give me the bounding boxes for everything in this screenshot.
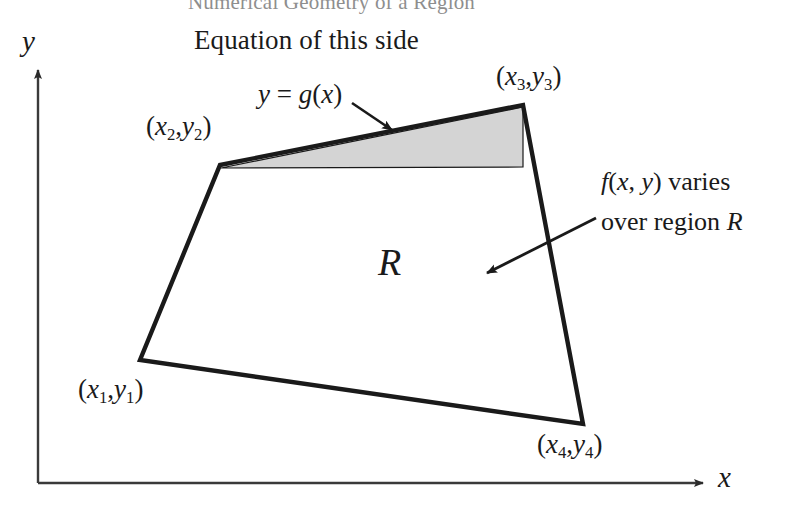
- y-axis-label: y: [22, 26, 35, 56]
- vertex-1-x: x: [87, 374, 99, 404]
- vertex-4-x: x: [546, 429, 558, 459]
- vertex-3-y: y: [532, 61, 544, 91]
- vertex-3-x: x: [505, 61, 517, 91]
- cut-off-page-title: Numerical Geometry of a Region: [188, 0, 475, 13]
- f-arg-y: y: [641, 167, 653, 196]
- caption-f-varies-line2: over region R: [601, 208, 743, 235]
- x-axis-label: x: [718, 462, 731, 492]
- gx-g: g: [299, 79, 313, 109]
- gx-y: y: [258, 79, 270, 109]
- vertex-2-label: (x2,y2): [146, 112, 211, 143]
- gx-close-paren: ): [333, 79, 342, 109]
- region-r-label: R: [378, 243, 401, 283]
- caption-f-varies-line1: f(x, y) varies: [601, 168, 730, 195]
- over-region-text: over region: [601, 207, 727, 236]
- vertex-4-y: y: [573, 429, 585, 459]
- vertex-2-x: x: [155, 111, 167, 141]
- caption-y-equals-g-of-x: y = g(x): [258, 80, 342, 108]
- vertex-2-y: y: [182, 111, 194, 141]
- caption-equation-of-this-side: Equation of this side: [194, 26, 419, 54]
- f-arg-x: x: [617, 167, 629, 196]
- vertex-4-label: (x4,y4): [537, 430, 602, 461]
- leader-arrow-f-varies: [487, 218, 596, 273]
- f-open-paren: (: [608, 167, 617, 196]
- gx-open-paren: (: [312, 79, 321, 109]
- vertex-3-label: (x3,y3): [496, 62, 561, 93]
- vertex-1-label: (x1,y1): [78, 375, 143, 406]
- f-varies-text: varies: [662, 167, 731, 196]
- f-comma: ,: [628, 167, 641, 196]
- over-region-r-symbol: R: [727, 207, 743, 236]
- f-close-paren: ): [653, 167, 662, 196]
- leader-arrow-gx: [352, 103, 392, 130]
- vertex-1-y: y: [114, 374, 126, 404]
- gx-x: x: [321, 79, 333, 109]
- gx-equals: =: [270, 79, 299, 109]
